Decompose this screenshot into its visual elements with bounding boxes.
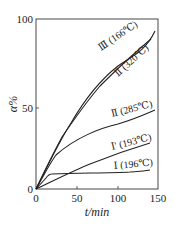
y-tick-50: 50: [22, 102, 34, 114]
y-axis-label: α%: [6, 96, 20, 112]
curve-label-I-prime-193C: Ⅰ' (193℃): [110, 131, 153, 153]
x-axis-label: t/min: [85, 205, 110, 219]
x-tick-0: 0: [33, 192, 39, 204]
x-tick-100: 100: [110, 192, 127, 204]
curve-II-285C: [36, 110, 155, 189]
curve-label-II-285C: Ⅱ (285℃): [110, 98, 154, 120]
curve-label-II-320C: Ⅱ (320℃): [112, 42, 151, 79]
curve-I-196C: [36, 170, 150, 189]
curve-label-III-166C: Ⅲ (166℃): [96, 18, 140, 53]
x-tick-150: 150: [150, 192, 167, 204]
curve-label-I-196C: Ⅰ (196℃): [113, 157, 153, 172]
y-tick-100: 100: [17, 13, 34, 25]
line-chart: 100 50 0 0 50 100 150 t/min α% Ⅲ (166℃) …: [0, 0, 176, 229]
x-tick-50: 50: [72, 192, 84, 204]
